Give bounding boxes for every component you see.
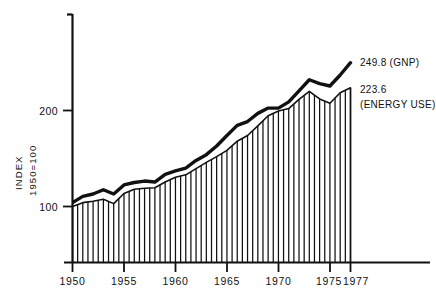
chart-background — [0, 0, 436, 295]
x-tick-label-1950: 1950 — [60, 275, 86, 287]
energy-end-label-line2: (ENERGY USE) — [360, 99, 436, 110]
chart-figure: 200 100 INDEX 1950=100 1950 1955 1960 19… — [0, 0, 436, 295]
energy-gnp-index-chart: 200 100 INDEX 1950=100 1950 1955 1960 19… — [0, 0, 436, 295]
x-tick-label-1977: 1977 — [343, 275, 369, 287]
x-tick-label-1955: 1955 — [111, 275, 137, 287]
y-tick-label-200: 200 — [39, 105, 58, 117]
y-axis-title-line1: INDEX — [13, 155, 24, 190]
x-tick-label-1965: 1965 — [214, 275, 240, 287]
x-tick-label-1975: 1975 — [316, 275, 342, 287]
gnp-end-label: 249.8 (GNP) — [360, 57, 419, 68]
x-tick-label-1970: 1970 — [266, 275, 292, 287]
y-axis-title-line2: 1950=100 — [27, 145, 38, 196]
x-tick-label-1960: 1960 — [163, 275, 189, 287]
y-tick-label-100: 100 — [39, 201, 58, 213]
energy-end-label-line1: 223.6 — [360, 84, 387, 95]
